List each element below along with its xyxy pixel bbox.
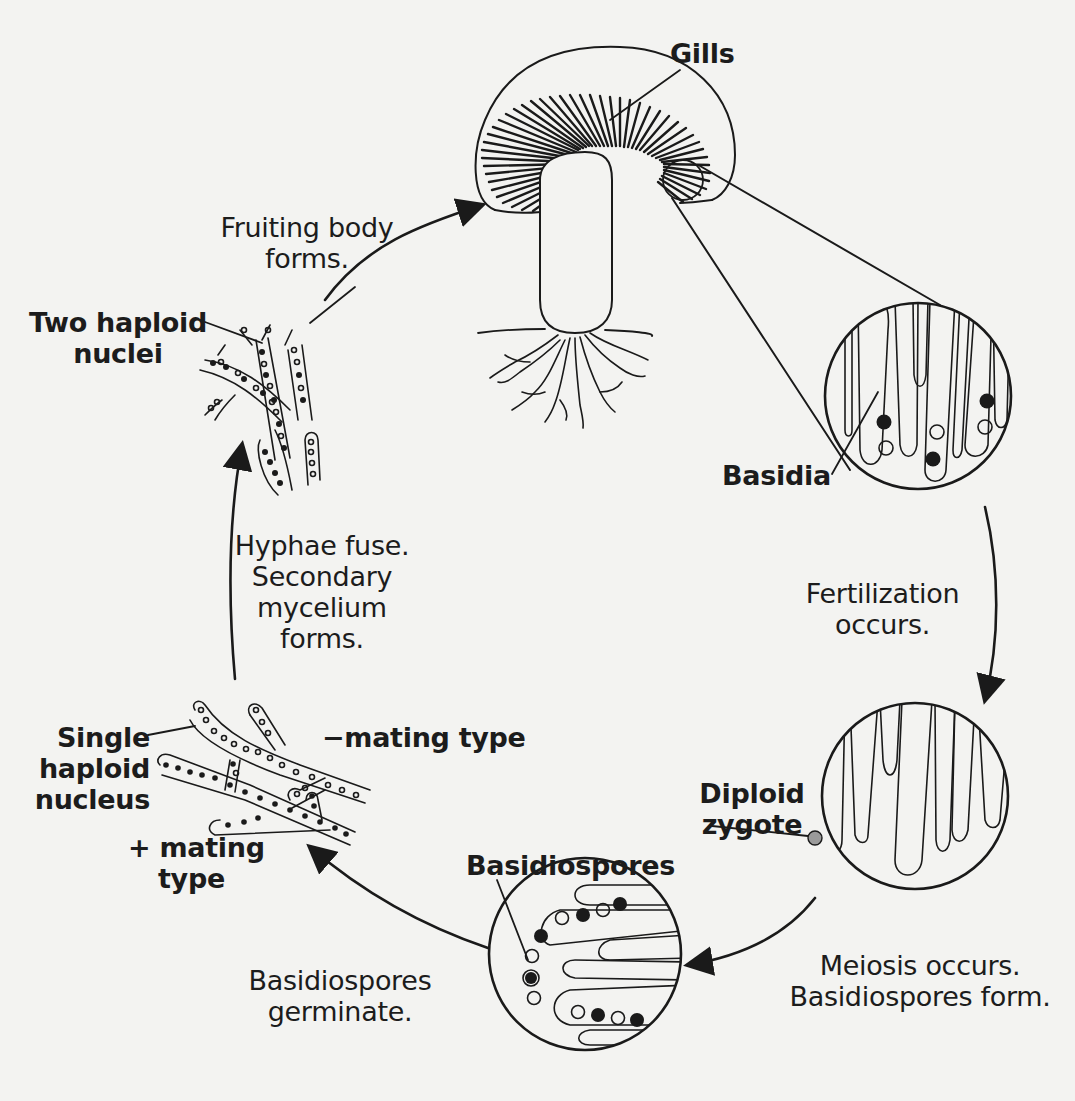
step-hyphae-fuse: Hyphae fuse. Secondary mycelium forms.: [232, 530, 412, 654]
basidia-leader-line: [832, 392, 878, 474]
diploid-zygote-label: Diploid zygote: [692, 778, 812, 840]
diploid-zygote-line2: zygote: [692, 809, 812, 840]
diploid-zygote-line1: Diploid: [692, 778, 812, 809]
step-basidiospores-germinate: Basidiospores germinate.: [240, 965, 440, 1027]
plus-mating-type-line1: + mating: [128, 832, 265, 863]
step-meiosis: Meiosis occurs. Basidiospores form.: [770, 950, 1070, 1012]
gills-leader-line: [610, 70, 680, 120]
step-germinate-line2: germinate.: [240, 996, 440, 1027]
gills-label: Gills: [670, 38, 735, 69]
zygote-magnified-icon: [789, 700, 1010, 889]
basidia-label: Basidia: [722, 460, 831, 491]
step-fruiting-body-line2: forms.: [214, 243, 400, 274]
mushroom-icon: [476, 47, 735, 428]
step-hyphae-fuse-line4: forms.: [232, 623, 412, 654]
step-hyphae-fuse-line1: Hyphae fuse.: [232, 530, 412, 561]
plus-mating-type-label: + mating type: [128, 832, 265, 894]
single-haploid-nucleus-label: Single haploid nucleus: [20, 722, 150, 815]
two-haploid-nuclei-label: Two haploid nuclei: [28, 307, 208, 369]
step-germinate-line1: Basidiospores: [240, 965, 440, 996]
single-haploid-nucleus-line1: Single: [20, 722, 150, 753]
step-hyphae-fuse-line3: mycelium: [232, 592, 412, 623]
step-hyphae-fuse-line2: Secondary: [232, 561, 412, 592]
single-haploid-nucleus-line2: haploid: [20, 753, 150, 784]
single-haploid-nucleus-leader-line: [148, 726, 195, 735]
secondary-mycelium-icon: [200, 325, 320, 495]
basidiospores-label: Basidiospores: [466, 850, 675, 881]
step-meiosis-line1: Meiosis occurs.: [770, 950, 1070, 981]
step-fruiting-body: Fruiting body forms.: [214, 212, 400, 274]
two-haploid-nuclei-line1: Two haploid: [28, 307, 208, 338]
minus-mating-type-label: −mating type: [322, 722, 526, 753]
step-fertilization-line2: occurs.: [790, 609, 975, 640]
two-haploid-nuclei-line2: nuclei: [28, 338, 208, 369]
fruiting-leader-line: [310, 287, 355, 323]
step-fertilization-line1: Fertilization: [790, 578, 975, 609]
basidiospores-magnified-icon: [489, 858, 690, 1050]
step-fertilization: Fertilization occurs.: [790, 578, 975, 640]
life-cycle-diagram: Gills Fruiting body forms. Two haploid n…: [0, 0, 1075, 1101]
plus-mating-type-line2: type: [128, 863, 265, 894]
single-haploid-nucleus-line3: nucleus: [20, 784, 150, 815]
two-haploid-nuclei-leader-line: [205, 322, 262, 343]
step-fruiting-body-line1: Fruiting body: [214, 212, 400, 243]
step-meiosis-line2: Basidiospores form.: [770, 981, 1070, 1012]
basidia-magnified-icon: [825, 300, 1011, 489]
